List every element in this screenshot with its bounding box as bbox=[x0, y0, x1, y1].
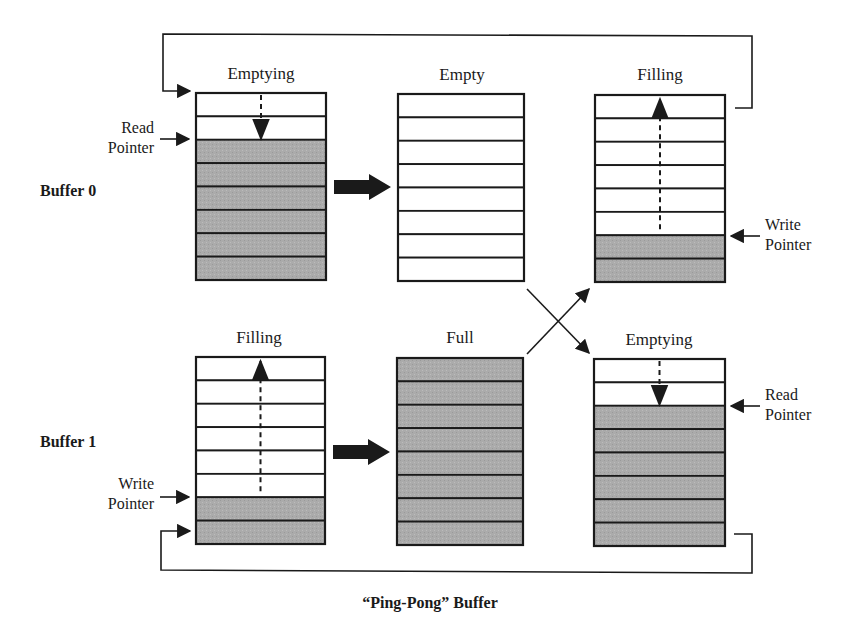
thick-arrow-b1 bbox=[333, 439, 390, 465]
title-b1-filling: Filling bbox=[236, 328, 281, 348]
buffer-slot-empty bbox=[398, 188, 524, 211]
buffer-slot-filled bbox=[196, 210, 326, 233]
buffer-slot-empty bbox=[398, 141, 524, 164]
buffer-slot-filled bbox=[196, 163, 326, 186]
buffer-slot-filled bbox=[397, 381, 523, 404]
buffer-slot-filled bbox=[594, 429, 725, 452]
write-pointer-label-b1: Write Pointer bbox=[108, 474, 154, 514]
buffer-slot-filled bbox=[196, 187, 326, 210]
diagram-caption: “Ping-Pong” Buffer bbox=[362, 594, 498, 612]
write-pointer-label-b0: Write Pointer bbox=[765, 215, 811, 255]
buffer-b1-filling bbox=[196, 357, 325, 544]
buffer-slot-empty bbox=[594, 382, 725, 405]
buffer-slot-filled bbox=[594, 476, 725, 499]
title-b0-empty: Empty bbox=[439, 65, 484, 85]
buffer-slot-filled bbox=[397, 522, 523, 545]
buffer-slot-filled bbox=[397, 498, 523, 521]
crossover-arrows bbox=[527, 289, 589, 354]
read-pointer-label-b1: Read Pointer bbox=[765, 385, 811, 425]
title-b0-emptying: Emptying bbox=[227, 64, 294, 84]
buffer1-row-label: Buffer 1 bbox=[40, 432, 96, 452]
buffer-slot-empty bbox=[595, 95, 725, 118]
buffer-b1-emptying bbox=[594, 359, 725, 546]
buffer-slot-empty bbox=[398, 164, 524, 187]
thick-arrow-b0 bbox=[334, 174, 391, 200]
buffer-slot-filled bbox=[595, 259, 725, 282]
buffer-slot-filled bbox=[397, 452, 523, 475]
buffer-slot-filled bbox=[397, 428, 523, 451]
buffer-slot-empty bbox=[196, 357, 325, 380]
buffer-slot-filled bbox=[594, 453, 725, 476]
ping-pong-diagram bbox=[0, 0, 859, 640]
buffer-slot-empty bbox=[595, 165, 725, 188]
buffer0-row-label: Buffer 0 bbox=[40, 181, 96, 201]
buffer-b0-emptying bbox=[196, 93, 326, 280]
buffer-b0-filling bbox=[595, 95, 725, 282]
buffer-slot-filled bbox=[594, 499, 725, 522]
buffer-slot-empty bbox=[398, 211, 524, 234]
buffer-slot-filled bbox=[196, 140, 326, 163]
buffer-slot-empty bbox=[398, 117, 524, 140]
buffer-slot-empty bbox=[398, 94, 524, 117]
buffer-slot-filled bbox=[196, 233, 326, 256]
buffer-b0-empty bbox=[398, 94, 524, 281]
buffer-slot-filled bbox=[595, 235, 725, 258]
buffer-slot-filled bbox=[397, 358, 523, 381]
buffer-slot-filled bbox=[594, 406, 725, 429]
title-b1-full: Full bbox=[446, 328, 473, 348]
title-b0-filling: Filling bbox=[637, 65, 682, 85]
transition-arrows bbox=[333, 174, 391, 465]
buffer-slot-filled bbox=[397, 475, 523, 498]
buffer-slot-filled bbox=[594, 523, 725, 546]
read-pointer-label-b0: Read Pointer bbox=[108, 118, 154, 158]
buffer-slot-filled bbox=[196, 497, 325, 520]
buffer-slot-filled bbox=[397, 405, 523, 428]
buffer-boxes bbox=[196, 93, 725, 546]
buffer-slot-empty bbox=[196, 116, 326, 139]
buffer-b1-full bbox=[397, 358, 523, 545]
buffer-slot-empty bbox=[398, 258, 524, 281]
title-b1-emptying: Emptying bbox=[625, 330, 692, 350]
buffer-slot-empty bbox=[398, 234, 524, 257]
buffer-slot-filled bbox=[196, 521, 325, 544]
buffer-slot-empty bbox=[196, 427, 325, 450]
buffer-slot-filled bbox=[196, 257, 326, 280]
